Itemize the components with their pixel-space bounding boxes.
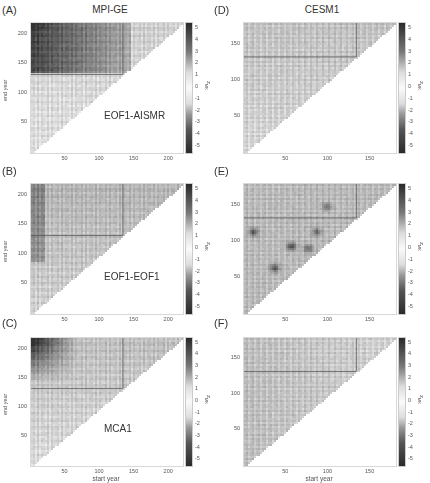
colorbar-label-sub: MK — [417, 84, 422, 90]
colorbar-tick-label: 3 — [195, 48, 198, 54]
heatmap-canvas — [244, 184, 396, 314]
colorbar-tick-label: 3 — [408, 362, 411, 368]
colorbar-tick-label: -2 — [408, 420, 413, 426]
colorbar-tick-label: 4 — [195, 197, 198, 203]
x-tick-label: 100 — [89, 468, 109, 474]
colorbar — [185, 337, 193, 467]
y-tick-label: 150 — [7, 374, 27, 380]
panel-label-a: (A) — [2, 4, 17, 16]
panel-annotation: EOF1-EOF1 — [104, 271, 160, 282]
heatmap-canvas — [244, 338, 396, 466]
heatmap-f — [243, 337, 397, 467]
x-tick-label: 150 — [360, 468, 380, 474]
colorbar-tick-label: 3 — [408, 48, 411, 54]
y-tick-label: 100 — [7, 403, 27, 409]
x-tick-label: 50 — [275, 316, 295, 322]
x-tick-label: 200 — [158, 155, 178, 161]
panel-annotation: EOF1-AISMR — [104, 110, 165, 121]
colorbar-tick-label: -5 — [408, 455, 413, 461]
colorbar-label: zMK — [204, 395, 212, 404]
colorbar-tick-label: -5 — [195, 303, 200, 309]
colorbar-label: zMK — [204, 81, 212, 90]
y-tick-label: 200 — [7, 30, 27, 36]
y-tick-label: 50 — [7, 432, 27, 438]
x-tick-label: 100 — [89, 155, 109, 161]
colorbar-tick-label: 5 — [408, 185, 411, 191]
x-tick-label: 200 — [158, 316, 178, 322]
colorbar-tick-label: 1 — [408, 385, 411, 391]
colorbar-tick-label: 3 — [195, 362, 198, 368]
panel-annotation: MCA1 — [104, 423, 132, 434]
heatmap-canvas — [31, 338, 183, 466]
y-tick-label: 50 — [220, 112, 240, 118]
colorbar-tick-label: 2 — [408, 59, 411, 65]
colorbar-tick-label: 0 — [408, 244, 411, 250]
colorbar-tick-label: -1 — [195, 256, 200, 262]
colorbar-tick-label: -2 — [195, 420, 200, 426]
y-tick-label: 150 — [7, 220, 27, 226]
y-axis-label: end year — [2, 241, 8, 262]
x-tick-label: 150 — [124, 155, 144, 161]
colorbar-tick-label: -3 — [195, 432, 200, 438]
heatmap-canvas — [31, 23, 183, 153]
colorbar-tick-label: 2 — [195, 59, 198, 65]
x-tick-label: 150 — [360, 316, 380, 322]
colorbar-tick-label: -2 — [408, 107, 413, 113]
colorbar — [398, 183, 406, 315]
colorbar-tick-label: -5 — [408, 303, 413, 309]
colorbar-tick-label: -4 — [408, 444, 413, 450]
colorbar-tick-label: 4 — [195, 36, 198, 42]
colorbar-tick-label: -4 — [195, 130, 200, 136]
y-tick-label: 100 — [220, 237, 240, 243]
colorbar-tick-label: -1 — [408, 409, 413, 415]
x-axis-label: start year — [76, 475, 136, 482]
colorbar-tick-label: -2 — [195, 268, 200, 274]
colorbar-tick-label: 1 — [195, 385, 198, 391]
panel-label-f: (F) — [214, 317, 228, 329]
x-tick-label: 100 — [317, 316, 337, 322]
x-tick-label: 150 — [360, 155, 380, 161]
colorbar-tick-label: -4 — [195, 291, 200, 297]
colorbar-tick-label: -5 — [195, 142, 200, 148]
colorbar-tick-label: 4 — [195, 350, 198, 356]
colorbar-tick-label: 1 — [195, 232, 198, 238]
colorbar — [398, 22, 406, 154]
x-tick-label: 100 — [89, 316, 109, 322]
x-tick-label: 150 — [124, 468, 144, 474]
colorbar-tick-label: 5 — [408, 339, 411, 345]
colorbar-label: zMK — [417, 395, 425, 404]
colorbar-label-sub: MK — [204, 398, 209, 404]
heatmap-a — [30, 22, 184, 154]
colorbar-tick-label: 0 — [195, 244, 198, 250]
colorbar-tick-label: 1 — [408, 71, 411, 77]
y-tick-label: 200 — [7, 345, 27, 351]
colorbar-tick-label: 0 — [195, 83, 198, 89]
x-tick-label: 50 — [275, 468, 295, 474]
x-tick-label: 50 — [55, 468, 75, 474]
x-tick-label: 50 — [55, 316, 75, 322]
heatmap-canvas — [31, 184, 183, 314]
colorbar-tick-label: 1 — [408, 232, 411, 238]
colorbar-tick-label: -4 — [195, 444, 200, 450]
colorbar-tick-label: -2 — [195, 107, 200, 113]
heatmap-canvas — [244, 23, 396, 153]
colorbar — [185, 22, 193, 154]
colorbar-tick-label: -2 — [408, 268, 413, 274]
x-tick-label: 50 — [275, 155, 295, 161]
heatmap-d — [243, 22, 397, 154]
colorbar-tick-label: -3 — [408, 432, 413, 438]
y-tick-label: 150 — [220, 354, 240, 360]
colorbar-tick-label: 5 — [195, 24, 198, 30]
colorbar-label: zMK — [204, 242, 212, 251]
colorbar-tick-label: 5 — [195, 339, 198, 345]
colorbar-tick-label: 4 — [408, 36, 411, 42]
colorbar-tick-label: 0 — [195, 397, 198, 403]
column-title-cesm1: CESM1 — [292, 4, 352, 15]
y-tick-label: 100 — [220, 76, 240, 82]
colorbar-tick-label: 3 — [195, 209, 198, 215]
y-tick-label: 100 — [220, 390, 240, 396]
colorbar-tick-label: -1 — [195, 95, 200, 101]
colorbar-tick-label: -3 — [195, 279, 200, 285]
colorbar-label-sub: MK — [204, 245, 209, 251]
colorbar-tick-label: 2 — [408, 374, 411, 380]
